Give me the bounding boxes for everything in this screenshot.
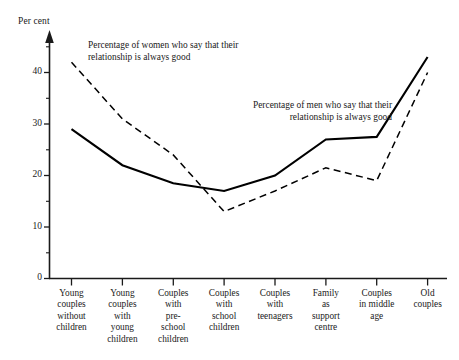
x-tick-label-5: Familyassupportcentre (300, 288, 352, 334)
y-tick-label-10: 10 (22, 221, 42, 231)
x-axis-ticks (72, 279, 428, 286)
x-tick-label-line: without (46, 311, 98, 322)
x-tick-label-line: centre (300, 322, 352, 333)
x-tick-label-line: children (147, 334, 199, 345)
x-tick-label-line: Young (46, 288, 98, 299)
x-tick-label-line: support (300, 311, 352, 322)
x-tick-label-line: children (46, 322, 98, 333)
x-tick-label-1: Youngcoupleswithyoungchildren (96, 288, 148, 345)
y-tick-label-0: 0 (22, 272, 42, 282)
x-tick-label-3: Coupleswithschoolchildren (198, 288, 250, 334)
x-tick-label-line: children (96, 334, 148, 345)
x-tick-label-line: in middle (351, 299, 403, 310)
y-tick-label-30: 30 (22, 118, 42, 128)
x-tick-label-line: Couples (147, 288, 199, 299)
x-tick-label-line: couples (46, 299, 98, 310)
x-tick-label-line: with (96, 311, 148, 322)
x-tick-label-2: Coupleswithpre-schoolchildren (147, 288, 199, 345)
annotation-men: Percentage of men who say that their rel… (210, 100, 392, 123)
chart-container: Per cent (0, 0, 459, 360)
x-tick-label-line: teenagers (249, 311, 301, 322)
y-tick-label-40: 40 (22, 66, 42, 76)
y-tick-label-20: 20 (22, 169, 42, 179)
series-line-men (72, 57, 428, 191)
x-tick-label-line: Young (96, 288, 148, 299)
x-tick-label-line: couples (402, 299, 454, 310)
x-tick-label-line: Old (402, 288, 454, 299)
x-tick-label-line: school (147, 322, 199, 333)
x-tick-label-4: Coupleswithteenagers (249, 288, 301, 322)
x-tick-label-line: age (351, 311, 403, 322)
x-tick-label-line: as (300, 299, 352, 310)
x-tick-label-line: Couples (351, 288, 403, 299)
x-tick-label-line: Family (300, 288, 352, 299)
x-tick-label-line: with (249, 299, 301, 310)
x-tick-label-line: school (198, 311, 250, 322)
x-tick-label-line: pre- (147, 311, 199, 322)
x-tick-label-0: Youngcoupleswithoutchildren (46, 288, 98, 334)
x-tick-label-line: with (147, 299, 199, 310)
x-tick-label-6: Couplesin middleage (351, 288, 403, 322)
y-axis (45, 30, 54, 279)
x-tick-label-line: couples (96, 299, 148, 310)
x-tick-label-line: Couples (198, 288, 250, 299)
x-tick-label-line: Couples (249, 288, 301, 299)
x-tick-label-line: young (96, 322, 148, 333)
x-tick-label-7: Oldcouples (402, 288, 454, 311)
x-tick-label-line: children (198, 322, 250, 333)
annotation-women: Percentage of women who say that their r… (88, 40, 263, 63)
x-tick-label-line: with (198, 299, 250, 310)
